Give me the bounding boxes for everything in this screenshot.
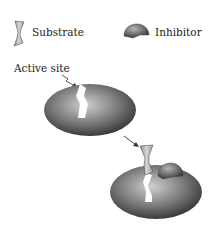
inhibitor-label: Inhibitor — [155, 26, 202, 38]
substrate-legend-icon — [14, 21, 24, 46]
active-site-label: Active site — [14, 62, 70, 74]
enzyme-free — [44, 84, 136, 136]
inhibitor-legend-icon — [124, 24, 149, 38]
reaction-arrow — [124, 136, 139, 147]
substrate-label: Substrate — [32, 26, 84, 38]
enzyme-inhibited-complex — [110, 145, 202, 219]
